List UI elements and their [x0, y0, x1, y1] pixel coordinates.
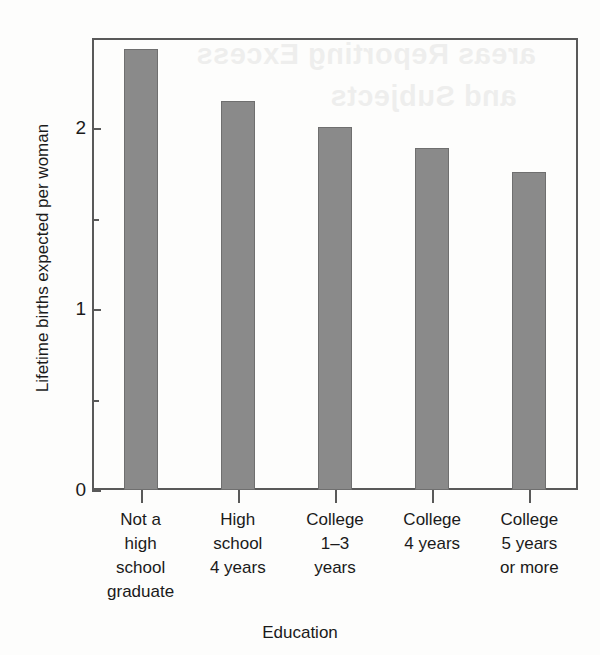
- bars-layer: [92, 38, 578, 490]
- x-axis-category-label: Highschool4 years: [186, 508, 290, 580]
- bar-chart-figure: 012 Lifetime births expected per woman N…: [0, 0, 600, 655]
- x-axis-category-label-line: High: [186, 508, 290, 532]
- y-axis-tick-minor: [92, 400, 99, 402]
- y-axis-tick-major: [92, 490, 101, 492]
- x-axis-category-label-line: years: [283, 556, 387, 580]
- x-axis-tick: [335, 490, 337, 503]
- x-axis-tick: [529, 490, 531, 503]
- bar: [318, 127, 352, 490]
- x-axis-tick: [141, 490, 143, 503]
- y-axis-tick-major: [92, 128, 101, 130]
- x-axis-category-label-line: College: [283, 508, 387, 532]
- bar: [512, 172, 546, 490]
- x-axis-title: Education: [0, 623, 600, 643]
- y-axis-tick-major: [92, 309, 101, 311]
- x-axis-category-label-line: 4 years: [380, 532, 484, 556]
- x-axis-category-label: College4 years: [380, 508, 484, 556]
- x-axis-category-label: College5 yearsor more: [477, 508, 581, 580]
- x-axis-category-label-line: Not a: [89, 508, 193, 532]
- bar: [221, 101, 255, 490]
- y-axis-tick-minor: [92, 38, 99, 40]
- bar: [124, 49, 158, 490]
- x-axis-tick: [432, 490, 434, 503]
- y-axis-title: Lifetime births expected per woman: [33, 98, 53, 418]
- x-axis-tick: [238, 490, 240, 503]
- x-axis-category-label: Not ahighschoolgraduate: [89, 508, 193, 604]
- x-axis-category-label-line: or more: [477, 556, 581, 580]
- x-axis-category-label-line: College: [380, 508, 484, 532]
- x-axis-category-label-line: graduate: [89, 580, 193, 604]
- x-axis-category-label-line: 4 years: [186, 556, 290, 580]
- x-axis-category-label-line: high: [89, 532, 193, 556]
- x-axis-category-label-line: College: [477, 508, 581, 532]
- y-axis-tick-label: 0: [46, 480, 86, 499]
- x-axis-category-label-line: 1–3: [283, 532, 387, 556]
- x-axis-category-label-line: school: [186, 532, 290, 556]
- x-axis-category-label-line: 5 years: [477, 532, 581, 556]
- bar: [415, 148, 449, 490]
- x-axis-category-label-line: school: [89, 556, 193, 580]
- x-axis-category-label: College1–3years: [283, 508, 387, 580]
- y-axis-tick-minor: [92, 219, 99, 221]
